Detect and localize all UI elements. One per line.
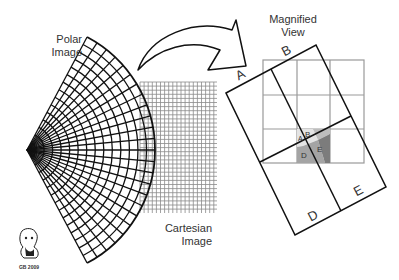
polar-label-line2: Image (40, 46, 82, 59)
polar-image-label: Polar Image (40, 33, 82, 59)
cartesian-image-label: Cartesian Image (150, 222, 212, 248)
inner-label-a: A (298, 132, 303, 145)
inner-label-b: B (305, 128, 310, 141)
magnified-view-label: Magnified View (263, 13, 323, 39)
cartesian-label-line1: Cartesian (150, 222, 212, 235)
inner-label-d: D (301, 149, 307, 162)
magnified-label-line1: Magnified (263, 13, 323, 26)
signature-doodle-icon (14, 225, 44, 265)
inner-label-e: E (317, 143, 322, 156)
polar-label-line1: Polar (40, 33, 82, 46)
polar-grid (27, 37, 155, 263)
signature-text: GB 2009 (12, 264, 46, 270)
magnified-label-line2: View (263, 26, 323, 39)
cartesian-grid (140, 82, 217, 213)
cartesian-label-line2: Image (150, 235, 212, 248)
curved-arrow-icon (138, 20, 246, 70)
